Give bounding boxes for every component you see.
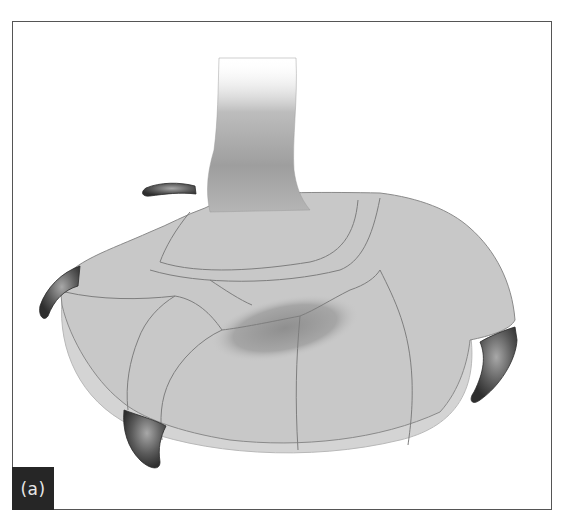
foot-illustration — [0, 0, 570, 514]
talon-hallux — [143, 183, 196, 196]
leg — [207, 58, 310, 212]
panel-label: (a) — [12, 467, 54, 510]
